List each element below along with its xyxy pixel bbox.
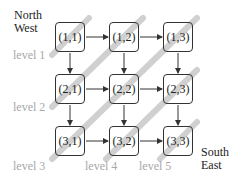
grid-node-1-1: (1,1) [55, 22, 85, 52]
level-1-label: level 1 [13, 49, 45, 62]
east-label: East [201, 159, 229, 172]
west-label: West [14, 22, 42, 35]
level-2-label: level 2 [13, 101, 45, 114]
north-west-label: North West [14, 9, 42, 35]
grid-node-3-2: (3,2) [109, 126, 139, 156]
grid-node-2-2: (2,2) [109, 74, 139, 104]
grid-node-2-3: (2,3) [163, 74, 193, 104]
grid-node-1-3: (1,3) [163, 22, 193, 52]
wavefront-grid-diagram: (1,1) (1,2) (1,3) (2,1) (2,2) (2,3) (3,1… [0, 0, 241, 183]
level-4-label: level 4 [85, 160, 117, 173]
grid-node-1-2: (1,2) [109, 22, 139, 52]
grid-node-2-1: (2,1) [55, 74, 85, 104]
grid-node-3-3: (3,3) [163, 126, 193, 156]
level-5-label: level 5 [139, 160, 171, 173]
grid-node-3-1: (3,1) [55, 126, 85, 156]
south-east-label: South East [201, 146, 229, 172]
level-3-label: level 3 [13, 160, 45, 173]
